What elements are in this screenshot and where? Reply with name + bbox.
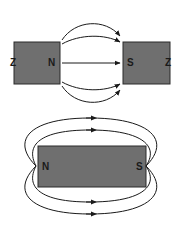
right-magnet-left-label: S (127, 57, 134, 68)
bar-magnet-s-label: S (136, 161, 143, 172)
field-lines-top (62, 24, 120, 103)
top-diagram: Z N S Z (10, 24, 171, 103)
bar-magnet-n-label: N (42, 161, 49, 172)
magnetic-field-diagram: Z N S Z N S (0, 0, 181, 231)
right-magnet-right-label: Z (165, 57, 171, 68)
left-magnet-left-label: Z (10, 57, 16, 68)
left-magnet-right-label: N (48, 57, 55, 68)
bar-magnet (38, 146, 146, 187)
bottom-diagram: N S (25, 118, 157, 214)
